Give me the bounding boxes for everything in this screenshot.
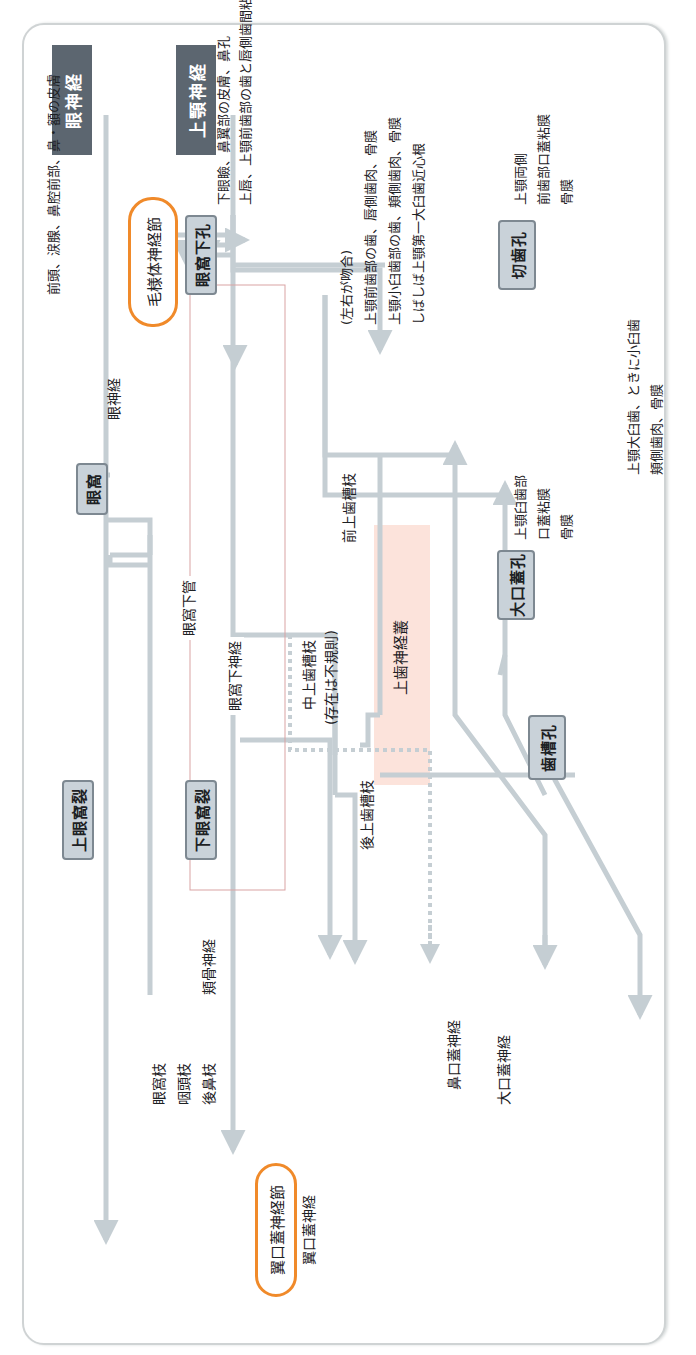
- target-infraorbital-1: 下眼瞼、鼻翼部の皮膚、鼻孔: [215, 36, 233, 205]
- label-pharyngeal-branch: 咽頭枝: [175, 1063, 193, 1105]
- target-dental-2: 上顎小臼歯部の歯、頬側歯肉、骨膜: [386, 117, 404, 325]
- box-alveolar-foramen: 歯槽孔: [528, 715, 566, 780]
- box-label: 眼窩下孔: [191, 223, 212, 287]
- target-frontal: 前頭、涙腺、鼻腔前部、鼻・額の皮膚: [45, 74, 63, 295]
- target-bilateral-note: (左右が吻合): [338, 250, 356, 325]
- label-orbital-branch: 眼窩枝: [150, 1063, 168, 1105]
- target-incisive-1: 上顎両側: [512, 153, 530, 205]
- target-palatine-1: 上顎臼歯部: [512, 475, 530, 540]
- box-inferior-orbital-fissure: 下眼窩裂: [185, 780, 217, 860]
- target-incisive-2: 前歯部口蓋粘膜: [535, 114, 553, 205]
- root-label: 眼神経: [60, 72, 85, 129]
- box-greater-palatine-foramen: 大口蓋孔: [497, 550, 535, 620]
- box-superior-orbital-fissure: 上眼窩裂: [62, 780, 94, 860]
- label-zygomatic-nerve: 頬骨神経: [200, 939, 218, 995]
- diagram-canvas: 眼神経 上顎神経 上眼窩裂 下眼窩裂 眼窩 眼窩下孔 切歯孔 大口蓋孔 歯槽孔 …: [0, 0, 696, 1355]
- root-maxillary-nerve: 上顎神経: [176, 45, 216, 155]
- ganglion-label: 毛様体神経節: [143, 217, 164, 307]
- target-dental-3: しばしば上顎第一大臼歯近心根: [410, 143, 428, 325]
- label-infraorbital-canal: 眼窩下管: [180, 576, 198, 640]
- label-nasopalatine-nerve: 鼻口蓋神経: [445, 1020, 463, 1090]
- target-infraorbital-2: 上唇、上顎前歯部の歯と唇側歯間粘膜: [237, 0, 255, 205]
- ganglion-label: 翼口蓋神経節: [266, 1185, 287, 1275]
- box-label: 下眼窩裂: [191, 788, 212, 852]
- target-molar-2: 頬側歯肉、骨膜: [648, 384, 666, 475]
- target-incisive-3: 骨膜: [558, 179, 576, 205]
- box-incisive-foramen: 切歯孔: [498, 220, 536, 290]
- root-label: 上顎神経: [184, 62, 209, 138]
- target-dental-1: 上顎前歯部の歯、唇側歯肉、骨膜: [362, 130, 380, 325]
- ganglion-pterygopalatine: 翼口蓋神経節: [255, 1163, 297, 1297]
- label-middle-superior-alveolar: 中上歯槽枝: [300, 640, 318, 710]
- box-label: 歯槽孔: [537, 724, 558, 772]
- box-label: 切歯孔: [507, 231, 528, 279]
- connector-lines: [0, 0, 696, 1355]
- target-palatine-3: 骨膜: [558, 514, 576, 540]
- label-superior-dental-plexus: 上歯神経叢: [392, 620, 410, 695]
- box-label: 大口蓋孔: [506, 553, 527, 617]
- label-middle-note: (存在は不規則): [322, 630, 340, 725]
- label-greater-palatine-nerve: 大口蓋神経: [495, 1035, 513, 1105]
- label-pterygopalatine-nerve: 翼口蓋神経: [300, 1195, 318, 1265]
- target-palatine-2: 口蓋粘膜: [535, 488, 553, 540]
- label-anterior-superior-alveolar: 前上歯槽枝: [340, 473, 358, 543]
- box-label: 眼窩: [82, 473, 103, 505]
- box-label: 上眼窩裂: [68, 788, 89, 852]
- label-optic-nerve: 眼神経: [105, 378, 123, 420]
- box-infraorbital-foramen: 眼窩下孔: [185, 215, 217, 295]
- label-infraorbital-nerve: 眼窩下神経: [226, 637, 244, 715]
- ganglion-ciliary: 毛様体神経節: [128, 197, 178, 327]
- box-orbit: 眼窩: [76, 463, 108, 515]
- label-posterior-superior-alveolar: 後上歯槽枝: [358, 780, 376, 850]
- target-molar-1: 上顎大臼歯、ときに小臼歯: [625, 319, 643, 475]
- label-posterior-nasal-branch: 後鼻枝: [200, 1063, 218, 1105]
